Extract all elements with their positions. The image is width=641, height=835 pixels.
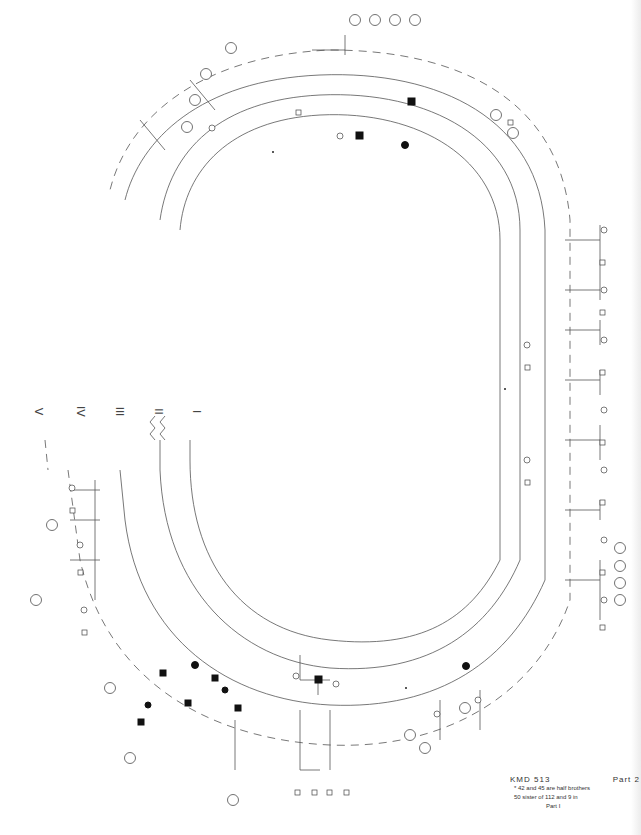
affected-male-bl6 <box>185 700 191 706</box>
generation-label-iv: IV <box>74 406 87 417</box>
generation-label-v: V <box>32 408 45 416</box>
founder-6 <box>333 681 339 687</box>
generation-ii-arc <box>160 95 520 669</box>
legend-title: KMD 513 Part 2 <box>510 775 640 784</box>
generation-iii-arc <box>120 75 545 706</box>
generation-label-i: I <box>190 410 203 413</box>
asterisk-marker <box>405 687 407 689</box>
affected-female-bl8 <box>222 687 228 693</box>
affected-male-top <box>408 98 415 105</box>
legend-note: * 42 and 45 are half brothers <box>510 784 640 793</box>
asterisk-marker <box>272 151 274 153</box>
legend-note: Part I <box>510 802 640 811</box>
affected-male-bl4 <box>138 719 144 725</box>
generation-label-ii: II <box>152 408 165 415</box>
founder-line <box>300 655 330 695</box>
founder-2 <box>293 673 299 679</box>
legend-note: 50 sister of 112 and 9 in <box>510 793 640 802</box>
legend: KMD 513 Part 2 * 42 and 45 are half brot… <box>510 775 640 811</box>
affected-female-bl5 <box>145 702 151 708</box>
generation-v-boundary <box>45 440 48 470</box>
affected-male-bl3 <box>160 670 166 676</box>
part-label: Part 2 <box>613 775 640 784</box>
kindred-id: KMD 513 <box>510 775 550 784</box>
affected-male-47 <box>356 132 363 139</box>
affected-female-44 <box>463 663 470 670</box>
affected-male-bl7 <box>235 705 241 711</box>
generation-i-arc <box>180 115 500 642</box>
generation-iv-boundary <box>68 50 570 745</box>
asterisk-marker <box>504 388 506 390</box>
generation-labels: V IV III II I <box>35 405 215 425</box>
affected-female <box>402 142 409 149</box>
generation-label-iii: III <box>113 407 126 417</box>
scan-edge-shading <box>631 0 641 835</box>
affected-male-bl1 <box>212 675 218 681</box>
affected-female-bl2 <box>192 662 199 669</box>
affected-male-4 <box>315 676 322 683</box>
